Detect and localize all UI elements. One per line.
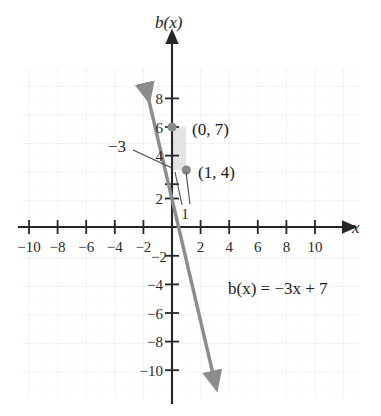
y-tick-label: −6: [147, 306, 163, 322]
background-grid: [20, 68, 360, 398]
x-axis-label: x: [351, 218, 360, 237]
coordinate-plane-figure: −10 −8 −6 −4 −2 2 4 6 8 10 8 6 4 2 −2 −4…: [0, 0, 381, 416]
point-label-intercept: (0, 7): [192, 120, 229, 139]
y-tick-label: 8: [156, 91, 164, 107]
x-tick-label: 6: [254, 239, 262, 255]
x-tick-label: 2: [197, 239, 205, 255]
data-point-intercept[interactable]: [167, 122, 176, 131]
y-axis-label: b(x): [155, 13, 183, 32]
y-tick-label: −10: [140, 363, 163, 379]
run-annotation-label: 1: [181, 206, 189, 222]
x-tick-label: −8: [50, 239, 66, 255]
equation-label: b(x) = −3x + 7: [228, 279, 328, 298]
x-tick-label: 8: [283, 239, 291, 255]
x-tick-label: −6: [78, 239, 94, 255]
x-tick-label: −2: [135, 239, 151, 255]
x-tick-label: −10: [17, 239, 40, 255]
slope-shaded-region: [172, 127, 186, 170]
y-tick-label: 2: [156, 191, 164, 207]
y-tick-label: −4: [147, 277, 163, 293]
y-tick-label: 4: [156, 148, 164, 164]
graph-canvas: −10 −8 −6 −4 −2 2 4 6 8 10 8 6 4 2 −2 −4…: [0, 0, 381, 416]
y-tick-label: 6: [156, 120, 164, 136]
y-tick-label: −8: [147, 334, 163, 350]
point-label-second: (1, 4): [198, 163, 235, 182]
x-tick-label: −4: [107, 239, 123, 255]
x-tick-label: 4: [225, 239, 233, 255]
y-tick-label: −2: [151, 249, 167, 265]
x-tick-label: 10: [308, 239, 323, 255]
rise-annotation-label: −3: [108, 137, 126, 156]
